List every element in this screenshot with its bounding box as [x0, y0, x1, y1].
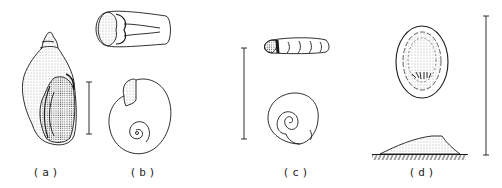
panel-label-d: (d) [409, 166, 438, 179]
shell-c-apical-view [268, 93, 318, 144]
panel-label-b: (b) [130, 166, 159, 179]
shell-b-aperture-view [96, 11, 171, 47]
shell-a-apertural [22, 32, 76, 145]
panel-label-c: (c) [283, 166, 312, 179]
scale-bar-a [86, 82, 92, 134]
shell-b-apical-view [109, 79, 171, 154]
shell-c-side-view [265, 38, 330, 54]
panel-label-a: (a) [33, 166, 62, 179]
scale-bar-d [483, 16, 489, 155]
shell-d-dorsal-view [396, 26, 448, 98]
shell-d-lateral-view [372, 136, 468, 160]
scale-bar-c [241, 48, 247, 139]
figure-canvas [0, 0, 502, 188]
